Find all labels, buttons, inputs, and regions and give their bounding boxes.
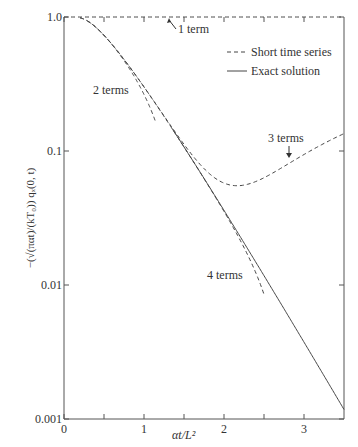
series-exact-solution [172,128,344,409]
legend: Short time series Exact solution [227,45,332,78]
x-tick-label: 1 [141,422,147,436]
x-tick-label: 2 [221,422,227,436]
legend-label-exact: Exact solution [251,64,320,78]
y-tick-label: 1.0 [47,10,62,24]
y-tick-label: 0.1 [47,144,62,158]
annotation-3-terms: 3 terms [268,131,304,145]
series-4-terms [88,21,264,294]
x-tick-label: 3 [301,422,307,436]
arrowhead-3-terms [286,153,292,158]
annotation-2-terms: 2 terms [93,83,129,97]
series-2-terms [80,18,156,123]
chart: 01231.00.10.010.001 1 term2 terms3 terms… [0,0,358,447]
y-tick-label: 0.001 [35,412,62,426]
x-axis-label: αt/L² [172,428,196,442]
y-axis-label: −(√(παt)/(kT₀)) qₓ(0, t) [24,167,37,268]
y-tick-label: 0.01 [41,278,62,292]
annotation-1-term: 1 term [178,22,210,36]
series-3-terms [80,18,344,186]
legend-label-short-time: Short time series [251,45,332,59]
annotation-4-terms: 4 terms [207,268,243,282]
